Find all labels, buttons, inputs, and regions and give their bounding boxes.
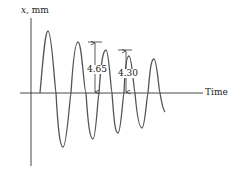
y-axis-label: x, mm: [21, 6, 49, 15]
amplitude-label-2: 4.30: [117, 69, 139, 78]
damped-oscillation-chart: [0, 0, 233, 171]
oscillation-curve: [40, 31, 165, 147]
x-axis-label: Time: [205, 88, 228, 97]
y-axis-unit: , mm: [26, 5, 49, 15]
amplitude-label-1: 4.65: [86, 65, 108, 74]
